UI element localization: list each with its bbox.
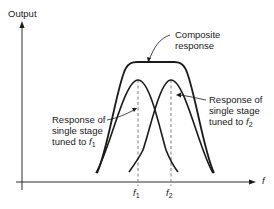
x-axis-symbol: f	[262, 175, 265, 186]
stage2-annotation: Response of single stage tuned to f2	[209, 94, 262, 130]
f2-tick-label: f2	[166, 187, 173, 201]
stage1-leader-arrow-icon	[132, 108, 137, 112]
f2-subscript: 2	[169, 192, 173, 199]
stage2-tuned-text: tuned to	[209, 116, 246, 127]
stage2-f-subscript: 2	[249, 121, 253, 128]
stage1-annotation-line1: Response of	[52, 114, 105, 125]
f1-subscript: 1	[136, 192, 140, 199]
composite-annotation-line2: response	[175, 40, 220, 51]
stage1-f-subscript: 1	[92, 141, 96, 148]
composite-leader	[149, 35, 170, 61]
stage2-annotation-line3: tuned to f2	[209, 116, 262, 130]
stage1-leader	[107, 110, 134, 120]
stage1-annotation-line3: tuned to f1	[52, 136, 105, 150]
stage2-leader-arrow-icon	[176, 93, 181, 98]
x-axis-arrow-icon	[249, 180, 256, 185]
y-axis-label: Output	[8, 8, 37, 19]
composite-response-curve	[97, 62, 214, 173]
stage1-annotation: Response of single stage tuned to f1	[52, 114, 105, 150]
stage2-annotation-line1: Response of	[209, 94, 262, 105]
composite-annotation-line1: Composite	[175, 29, 220, 40]
stage1-annotation-line2: single stage	[52, 125, 105, 136]
y-axis-arrow-icon	[20, 21, 25, 28]
f1-tick-label: f1	[133, 187, 140, 201]
stage1-tuned-text: tuned to	[52, 136, 89, 147]
stage2-annotation-line2: single stage	[209, 105, 262, 116]
x-axis-label: f	[262, 175, 265, 186]
composite-annotation: Composite response	[175, 29, 220, 51]
